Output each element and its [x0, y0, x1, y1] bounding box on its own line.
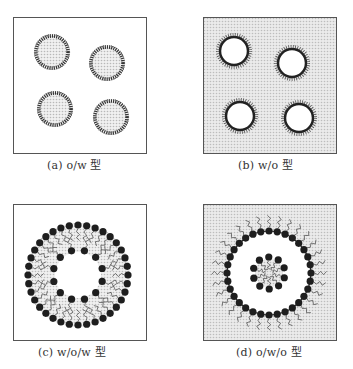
panel-a-ow: [13, 17, 147, 154]
caption-a: (a) o/w 型: [47, 156, 102, 172]
panel-border: [14, 18, 147, 154]
panel-d-owo: [203, 204, 337, 341]
ow-emulsion-diagram: [13, 17, 147, 154]
wow-emulsion-diagram: [13, 204, 147, 341]
panel-b-wo: [203, 17, 337, 154]
panel-c-wow: [13, 204, 147, 341]
panel-border: [204, 18, 337, 154]
caption-d: (d) o/w/o 型: [236, 343, 302, 359]
caption-c: (c) w/o/w 型: [38, 343, 106, 359]
wo-emulsion-diagram: [203, 17, 337, 154]
caption-b: (b) w/o 型: [238, 156, 293, 172]
owo-emulsion-diagram: [203, 204, 337, 341]
